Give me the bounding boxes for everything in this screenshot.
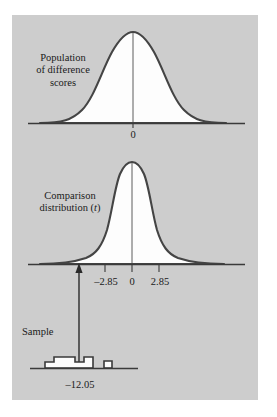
comparison-label-line1: Comparison [20, 190, 120, 202]
comparison-label-suffix: ) [97, 202, 101, 213]
tick-label-negative-285: –2.85 [88, 276, 124, 288]
sample-histogram-bar-outlier [104, 361, 112, 368]
population-label-line3: scores [20, 77, 106, 89]
population-zero-tick-label: 0 [118, 129, 148, 141]
sample-label: Sample [22, 326, 82, 338]
comparison-label-line2: distribution (t) [20, 202, 120, 214]
comparison-distribution-label: Comparison distribution (t) [20, 190, 120, 215]
statistics-figure: Population of difference scores 0 Compar… [0, 0, 277, 417]
sample-mean-label: –12.05 [50, 379, 110, 391]
tick-label-positive-285: 2.85 [142, 276, 178, 288]
population-label: Population of difference scores [20, 52, 106, 89]
sample-to-distribution-arrow [75, 263, 82, 368]
comparison-label-prefix: distribution ( [40, 202, 95, 213]
population-label-line1: Population [20, 52, 106, 64]
sample-histogram-group [30, 357, 138, 369]
comparison-distribution-group [28, 162, 245, 272]
sample-histogram-bars [45, 357, 93, 368]
tick-label-zero: 0 [124, 276, 140, 288]
population-label-line2: of difference [20, 64, 106, 76]
